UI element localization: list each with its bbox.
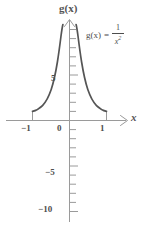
equation-fraction: 1 x2 — [112, 24, 124, 46]
y-tick-label-neg5: −5 — [45, 168, 55, 177]
curve-left-branch — [33, 25, 63, 112]
y-tick-label-5: 5 — [51, 74, 56, 83]
equation-denominator: x2 — [113, 34, 124, 46]
equation-denominator-exponent: 2 — [118, 35, 121, 41]
x-tick-label-zero: 0 — [57, 124, 62, 133]
equation-function-name: g(x) — [86, 30, 101, 40]
y-axis-label: g(x) — [59, 3, 77, 14]
y-tick-label-neg10: −10 — [38, 205, 52, 214]
function-graph-figure: g(x) x −1 0 1 5 −5 −10 g(x) = 1 x2 — [0, 0, 144, 225]
equation-numerator: 1 — [114, 24, 122, 33]
x-axis-label: x — [131, 112, 137, 123]
x-tick-label-neg1: −1 — [21, 124, 31, 133]
equation-annotation: g(x) = 1 x2 — [86, 24, 124, 46]
equation-equals-sign: = — [104, 30, 109, 40]
x-tick-label-pos1: 1 — [100, 124, 105, 133]
